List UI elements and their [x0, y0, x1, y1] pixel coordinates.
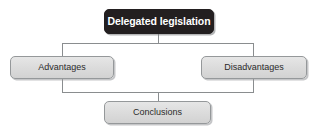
- node-conclusions[interactable]: Conclusions: [104, 101, 211, 124]
- connector-to-advantages: [62, 43, 63, 56]
- node-delegated-legislation[interactable]: Delegated legislation: [104, 9, 214, 34]
- node-conclusions-label: Conclusions: [133, 108, 182, 117]
- connector-upper-bar: [62, 43, 254, 44]
- connector-disadvantages-down: [253, 79, 254, 93]
- node-disadvantages-label: Disadvantages: [224, 63, 284, 72]
- node-advantages-label: Advantages: [38, 63, 86, 72]
- connector-to-disadvantages: [253, 43, 254, 56]
- node-advantages[interactable]: Advantages: [10, 56, 114, 79]
- delegated-legislation-flowchart: Delegated legislation Advantages Disadva…: [0, 0, 317, 136]
- connector-advantages-down: [62, 79, 63, 93]
- node-delegated-legislation-label: Delegated legislation: [108, 16, 211, 27]
- node-disadvantages[interactable]: Disadvantages: [201, 56, 307, 79]
